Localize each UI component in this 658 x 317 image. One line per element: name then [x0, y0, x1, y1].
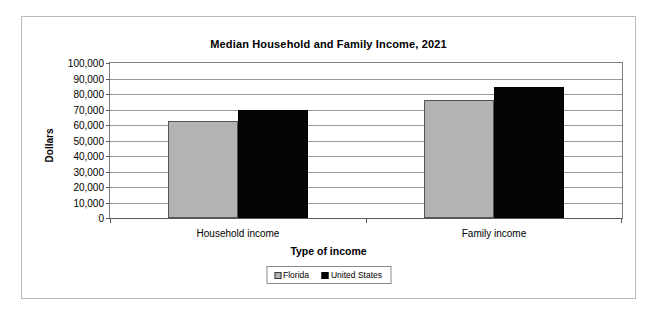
bar-florida-household-income	[168, 121, 238, 218]
y-axis-tick-mark	[106, 187, 110, 188]
x-axis-tick-mark	[621, 218, 622, 223]
x-axis-tick-mark	[366, 218, 367, 223]
chart-container: Median Household and Family Income, 2021…	[21, 16, 636, 299]
bar-united-states-family-income	[494, 87, 564, 218]
y-axis-tick-label: 40,000	[73, 151, 104, 162]
x-axis-category-label: Family income	[462, 228, 526, 239]
x-axis-tick-mark	[110, 218, 111, 223]
legend-label-united-states: United States	[331, 270, 382, 280]
bar-florida-family-income	[424, 100, 494, 218]
chart-legend: Florida United States	[266, 266, 391, 284]
legend-label-florida: Florida	[283, 270, 309, 280]
y-axis-tick-mark	[106, 63, 110, 64]
y-axis-tick-mark	[106, 94, 110, 95]
y-axis-tick-label: 50,000	[73, 135, 104, 146]
y-axis-tick-mark	[106, 203, 110, 204]
y-axis-tick-mark	[106, 110, 110, 111]
plot-area: 100,00090,00080,00070,00060,00050,00040,…	[109, 62, 623, 219]
legend-swatch-icon-florida	[274, 272, 281, 279]
gridline	[110, 79, 622, 80]
y-axis-tick-label: 70,000	[73, 104, 104, 115]
y-axis-tick-label: 10,000	[73, 197, 104, 208]
y-axis-title: Dollars	[44, 116, 55, 176]
y-axis-tick-mark	[106, 125, 110, 126]
y-axis-tick-label: 100,000	[68, 58, 104, 69]
y-axis-tick-label: 20,000	[73, 182, 104, 193]
y-axis-tick-label: 80,000	[73, 89, 104, 100]
y-axis-tick-label: 0	[98, 213, 104, 224]
legend-swatch-icon-united-states	[322, 272, 329, 279]
bar-united-states-household-income	[238, 110, 308, 218]
y-axis-tick-label: 60,000	[73, 120, 104, 131]
x-axis-title: Type of income	[22, 245, 635, 257]
y-axis-tick-label: 30,000	[73, 166, 104, 177]
legend-item-florida: Florida	[274, 270, 309, 280]
chart-title: Median Household and Family Income, 2021	[22, 38, 635, 50]
y-axis-tick-mark	[106, 141, 110, 142]
x-axis-category-label: Household income	[197, 228, 280, 239]
y-axis-tick-mark	[106, 156, 110, 157]
y-axis-tick-mark	[106, 172, 110, 173]
y-axis-tick-mark	[106, 79, 110, 80]
y-axis-tick-label: 90,000	[73, 73, 104, 84]
legend-item-united-states: United States	[322, 270, 382, 280]
